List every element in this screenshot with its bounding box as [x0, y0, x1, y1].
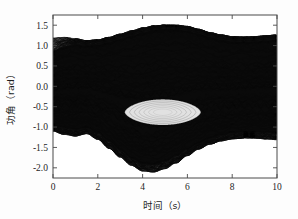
y-tick-label: 1.0 — [36, 41, 48, 51]
x-tick-label: 10 — [272, 182, 282, 192]
y-tick-label: -2.0 — [33, 163, 48, 173]
figure-page: 0246810 1.51.00.50.0-0.5-1.0-1.5-2.0 时间（… — [0, 0, 298, 219]
y-tick-label: -1.5 — [33, 143, 48, 153]
x-tick-label: 2 — [95, 182, 100, 192]
x-tick-label: 4 — [140, 182, 145, 192]
x-tick-label: 6 — [185, 182, 190, 192]
x-axis-title: 时间（s） — [143, 200, 188, 211]
y-tick-label: -1.0 — [33, 122, 48, 132]
y-tick-label: 0.0 — [36, 82, 48, 92]
y-tick-label: 1.5 — [36, 21, 48, 31]
x-tick-label: 8 — [230, 182, 235, 192]
y-axis-title: 功角（rad） — [5, 69, 16, 125]
y-tick-label: 0.5 — [36, 61, 48, 71]
x-tick-label: 0 — [51, 182, 56, 192]
chart-svg: 0246810 1.51.00.50.0-0.5-1.0-1.5-2.0 时间（… — [0, 0, 298, 219]
chart-figure: 0246810 1.51.00.50.0-0.5-1.0-1.5-2.0 时间（… — [0, 0, 298, 219]
y-tick-label: -0.5 — [33, 102, 48, 112]
